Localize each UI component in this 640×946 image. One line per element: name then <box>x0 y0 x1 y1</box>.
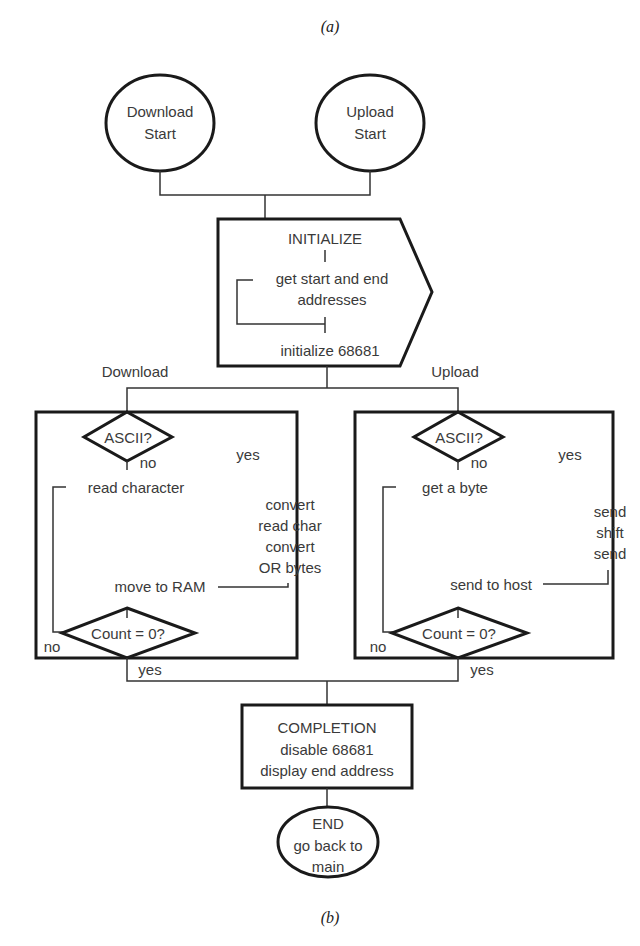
upload-branch-label: Upload <box>431 363 479 380</box>
upload-no-label: no <box>471 454 488 471</box>
download-yes-step-3: convert <box>265 538 315 555</box>
upload-ascii-decision: ASCII? <box>435 429 483 446</box>
upload-yes-label: yes <box>558 446 581 463</box>
download-yes-step-2: read char <box>258 517 321 534</box>
download-start-node: Download Start <box>106 75 214 171</box>
download-branch-label: Download <box>102 363 169 380</box>
end-line2: go back to <box>293 837 362 854</box>
initialize-title: INITIALIZE <box>288 230 362 247</box>
upload-start-line1: Upload <box>346 103 394 120</box>
download-yes-label: yes <box>236 446 259 463</box>
end-node: END go back to main <box>278 807 378 877</box>
initialize-step1-line2: addresses <box>297 291 366 308</box>
end-line3: main <box>312 858 345 875</box>
caption-a: (a) <box>321 18 340 36</box>
upload-yes-step-3: send <box>594 545 627 562</box>
completion-line1: disable 68681 <box>280 741 373 758</box>
upload-yes-step-2: shift <box>596 524 624 541</box>
download-no-label: no <box>140 454 157 471</box>
download-loop-block: ASCII? no yes read character convert rea… <box>36 412 322 678</box>
upload-loop-block: ASCII? no yes get a byte send shift send… <box>355 412 626 678</box>
download-move-to-ram: move to RAM <box>115 578 206 595</box>
upload-start-line2: Start <box>354 125 387 142</box>
upload-get-a-byte: get a byte <box>422 479 488 496</box>
upload-count-decision: Count = 0? <box>422 625 496 642</box>
download-read-character: read character <box>88 479 185 496</box>
start-connectors <box>160 171 370 219</box>
caption-b: (b) <box>321 909 340 927</box>
branch-split <box>127 366 458 412</box>
download-ascii-decision: ASCII? <box>104 429 152 446</box>
flowchart-canvas: (a) Download Start Upload Start INITIALI… <box>0 0 640 946</box>
download-start-line2: Start <box>144 125 177 142</box>
end-line1: END <box>312 815 344 832</box>
initialize-step2: initialize 68681 <box>280 342 379 359</box>
merge-connectors <box>127 658 458 705</box>
initialize-block: INITIALIZE get start and end addresses i… <box>218 219 432 366</box>
upload-yes-step-1: send <box>594 503 627 520</box>
completion-block: COMPLETION disable 68681 display end add… <box>242 705 412 808</box>
download-yes-step-1: convert <box>265 496 315 513</box>
download-start-line1: Download <box>127 103 194 120</box>
download-exit-yes-label: yes <box>138 661 161 678</box>
upload-loop-no-label: no <box>370 638 387 655</box>
initialize-step1-line1: get start and end <box>276 270 389 287</box>
completion-line2: display end address <box>260 762 393 779</box>
download-yes-step-4: OR bytes <box>259 559 322 576</box>
download-loop-no-label: no <box>44 638 61 655</box>
upload-exit-yes-label: yes <box>470 661 493 678</box>
upload-send-to-host: send to host <box>450 576 533 593</box>
completion-title: COMPLETION <box>277 719 376 736</box>
download-count-decision: Count = 0? <box>91 625 165 642</box>
upload-start-node: Upload Start <box>316 75 424 171</box>
